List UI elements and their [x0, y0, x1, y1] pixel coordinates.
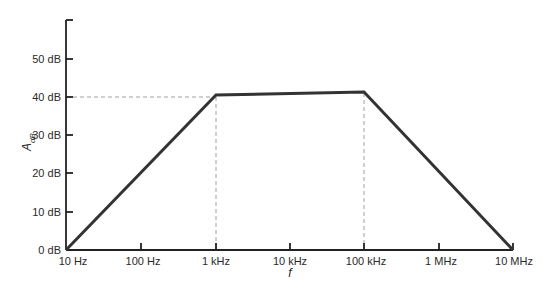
y-axis-title-sub: dB — [28, 132, 37, 142]
y-tick-label: 20 dB — [32, 167, 61, 179]
x-tick-label: 10 MHz — [495, 255, 533, 267]
x-tick-label: 100 kHz — [346, 255, 386, 267]
x-tick-label: 1 kHz — [202, 255, 230, 267]
y-tick-label: 40 dB — [32, 91, 61, 103]
y-axis-title: AdB — [20, 132, 37, 151]
y-axis — [66, 20, 73, 250]
x-axis — [66, 243, 513, 250]
bode-plot: 0 dB 10 dB 20 dB 30 dB 40 dB 50 dB 10 Hz… — [0, 0, 548, 292]
y-axis-title-main: A — [20, 143, 34, 152]
magnitude-curve — [66, 92, 513, 250]
y-tick-label: 0 dB — [38, 244, 61, 256]
x-tick-label: 100 Hz — [126, 255, 161, 267]
x-tick-label: 10 Hz — [59, 255, 88, 267]
svg-text:AdB: AdB — [20, 132, 37, 151]
x-tick-label: 1 MHz — [425, 255, 457, 267]
y-tick-label: 10 dB — [32, 206, 61, 218]
y-tick-label: 50 dB — [32, 53, 61, 65]
x-axis-title: f — [288, 266, 293, 280]
